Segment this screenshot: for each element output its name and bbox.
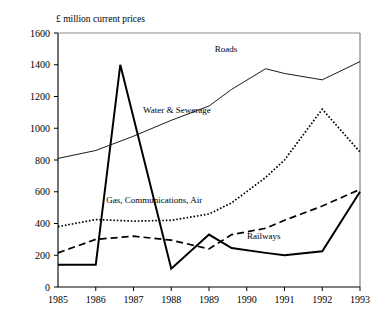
x-tick-label: 1989 (199, 294, 219, 305)
x-tick-label: 1991 (275, 294, 295, 305)
y-tick-label: 0 (45, 282, 50, 293)
x-tick-label: 1986 (86, 294, 106, 305)
series-label-roads: Roads (215, 44, 238, 54)
y-tick-label: 1000 (30, 123, 50, 134)
line-chart: 02004006008001000120014001600 1985198619… (0, 0, 386, 324)
x-tick-label: 1985 (48, 294, 68, 305)
y-tick-label: 800 (35, 155, 50, 166)
series-label-railways: Railways (247, 231, 281, 241)
x-axis-tick-labels: 198519861987198819891990199119921993 (48, 294, 370, 305)
x-tick-label: 1988 (161, 294, 181, 305)
chart-series-labels: RoadsWater & SewerageGas, Communications… (106, 44, 281, 241)
chart-canvas: 02004006008001000120014001600 1985198619… (0, 0, 386, 324)
x-tick-label: 1987 (124, 294, 144, 305)
y-tick-label: 1200 (30, 91, 50, 102)
chart-series-lines (58, 62, 360, 269)
x-tick-label: 1992 (312, 294, 332, 305)
series-label-gas-communications-air: Gas, Communications, Air (106, 195, 202, 205)
x-tick-label: 1990 (237, 294, 257, 305)
y-tick-label: 400 (35, 218, 50, 229)
y-tick-label: 1600 (30, 28, 50, 39)
y-axis-tick-labels: 02004006008001000120014001600 (30, 28, 50, 293)
chart-axis-unit-title: £ million current prices (56, 14, 145, 24)
x-tick-label: 1993 (350, 294, 370, 305)
y-tick-label: 1400 (30, 59, 50, 70)
series-label-water-sewerage: Water & Sewerage (143, 105, 211, 115)
y-tick-label: 600 (35, 186, 50, 197)
y-tick-label: 200 (35, 250, 50, 261)
